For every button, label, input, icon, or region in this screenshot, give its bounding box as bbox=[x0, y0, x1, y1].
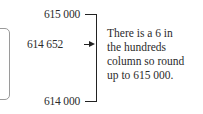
number-label: 614 652 bbox=[27, 38, 63, 50]
lower-tick bbox=[85, 101, 97, 102]
side-box-fragment bbox=[0, 28, 10, 100]
explanation-line: column so round bbox=[107, 54, 203, 68]
explanation-line: There is a 6 in bbox=[107, 26, 203, 40]
upper-bound-label: 615 000 bbox=[44, 8, 80, 20]
arrow-right-icon bbox=[89, 41, 95, 47]
lower-bound-label: 614 000 bbox=[44, 95, 80, 107]
explanation-line: the hundreds bbox=[107, 40, 203, 54]
explanation-line: up to 615 000. bbox=[107, 68, 203, 82]
explanation-text: There is a 6 in the hundreds column so r… bbox=[107, 26, 203, 82]
number-line-bracket bbox=[96, 14, 97, 101]
